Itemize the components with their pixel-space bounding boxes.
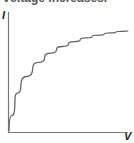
data-curve — [9, 31, 128, 131]
chart-plot — [0, 0, 134, 143]
